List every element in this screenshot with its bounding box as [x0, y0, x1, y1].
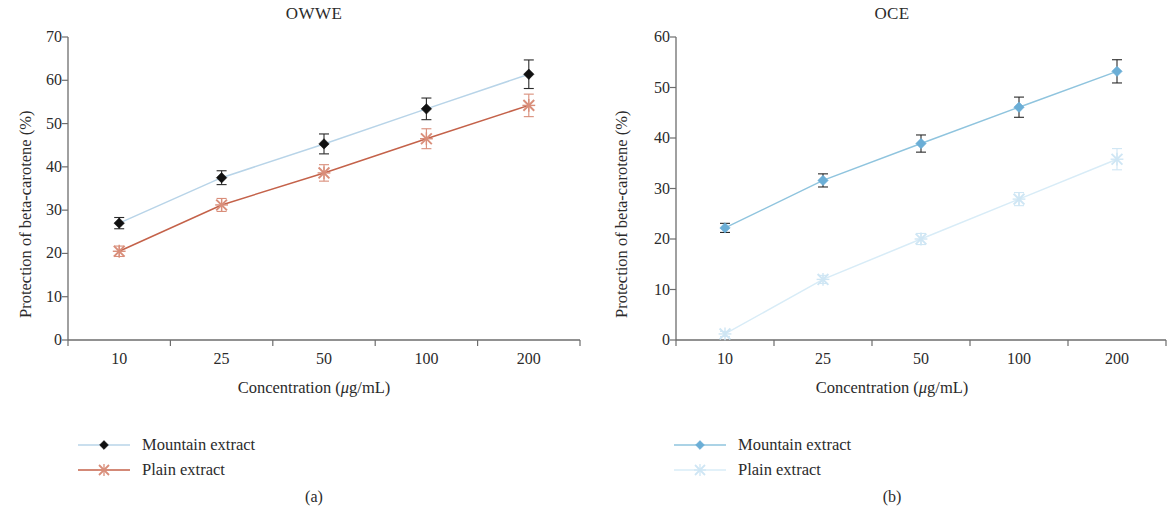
y-axis-title: Protection of beta-carotene (%): [612, 110, 632, 318]
y-tick-label: 60: [28, 72, 62, 88]
x-tick-label: 25: [815, 350, 831, 368]
legend-label: Mountain extract: [142, 435, 255, 455]
x-tick-label: 200: [1105, 350, 1129, 368]
y-tick-label: 40: [28, 159, 62, 175]
y-tick-labels: 706050403020100: [26, 37, 62, 340]
legend-label: Mountain extract: [738, 435, 851, 455]
figure-container: OWWE Protection of beta-carotene (%) 706…: [0, 0, 1176, 514]
mu-symbol: μ: [919, 378, 927, 397]
plot-svg: [68, 37, 580, 340]
y-tick-label: 40: [636, 130, 670, 146]
legend: Mountain extractPlain extract: [76, 432, 255, 482]
x-tick-label: 10: [111, 350, 127, 368]
y-tick-label: 30: [28, 202, 62, 218]
x-tick-label: 50: [913, 350, 929, 368]
plot-svg: [676, 37, 1166, 340]
x-axis-title-text: Concentration (μg/mL): [816, 378, 969, 397]
x-axis-title: Concentration (μg/mL): [588, 378, 1176, 398]
x-tick-label: 50: [316, 350, 332, 368]
panel-title: OWWE: [0, 4, 608, 24]
y-tick-label: 60: [636, 29, 670, 45]
y-tick-label: 70: [28, 29, 62, 45]
chart-panel-owwe: OWWE Protection of beta-carotene (%) 706…: [0, 0, 588, 514]
y-tick-label: 0: [636, 332, 670, 348]
mu-symbol: μ: [341, 378, 349, 397]
subcaption: (b): [588, 488, 1176, 506]
x-tick-labels: 102550100200: [676, 346, 1166, 370]
x-axis-title: Concentration (μg/mL): [0, 378, 608, 398]
y-tick-labels: 6050403020100: [634, 37, 670, 340]
y-tick-label: 10: [28, 289, 62, 305]
x-tick-label: 10: [717, 350, 733, 368]
legend-item[interactable]: Plain extract: [76, 457, 255, 482]
y-tick-label: 20: [28, 245, 62, 261]
chart-panel-oce: OCE Protection of beta-carotene (%) 6050…: [588, 0, 1176, 514]
y-tick-label: 50: [636, 80, 670, 96]
subcaption: (a): [0, 488, 608, 506]
plot-area: [676, 37, 1166, 340]
legend-item[interactable]: Mountain extract: [672, 432, 851, 457]
legend-cross-icon: [76, 460, 132, 480]
y-tick-label: 30: [636, 181, 670, 197]
x-axis-title-text: Concentration (μg/mL): [238, 378, 391, 397]
legend-cross-icon: [672, 460, 728, 480]
x-tick-labels: 102550100200: [68, 346, 580, 370]
legend: Mountain extractPlain extract: [672, 432, 851, 482]
y-tick-label: 20: [636, 231, 670, 247]
y-tick-label: 10: [636, 282, 670, 298]
x-tick-label: 100: [1007, 350, 1031, 368]
y-tick-label: 0: [28, 332, 62, 348]
legend-label: Plain extract: [142, 460, 225, 480]
legend-item[interactable]: Mountain extract: [76, 432, 255, 457]
legend-diamond-icon: [76, 435, 132, 455]
x-tick-label: 25: [214, 350, 230, 368]
panel-title: OCE: [588, 4, 1176, 24]
x-tick-label: 200: [517, 350, 541, 368]
plot-area: [68, 37, 580, 340]
legend-diamond-icon: [672, 435, 728, 455]
y-tick-label: 50: [28, 116, 62, 132]
x-tick-label: 100: [414, 350, 438, 368]
legend-label: Plain extract: [738, 460, 821, 480]
legend-item[interactable]: Plain extract: [672, 457, 851, 482]
